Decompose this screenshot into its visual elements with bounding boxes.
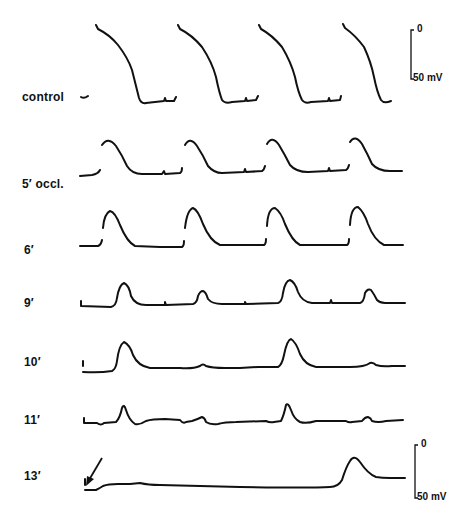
traces-svg xyxy=(0,0,467,515)
trace-11min xyxy=(84,404,403,424)
trace-5min-occlusion xyxy=(80,138,402,176)
trace-6min xyxy=(80,207,403,247)
trace-10min xyxy=(83,339,405,372)
trace-9min xyxy=(81,280,405,307)
scale-bar-bottom xyxy=(415,445,418,498)
trace-13min xyxy=(85,458,405,490)
arrow-icon xyxy=(86,458,102,486)
scale-bar-top xyxy=(411,30,414,79)
trace-control xyxy=(81,24,391,103)
